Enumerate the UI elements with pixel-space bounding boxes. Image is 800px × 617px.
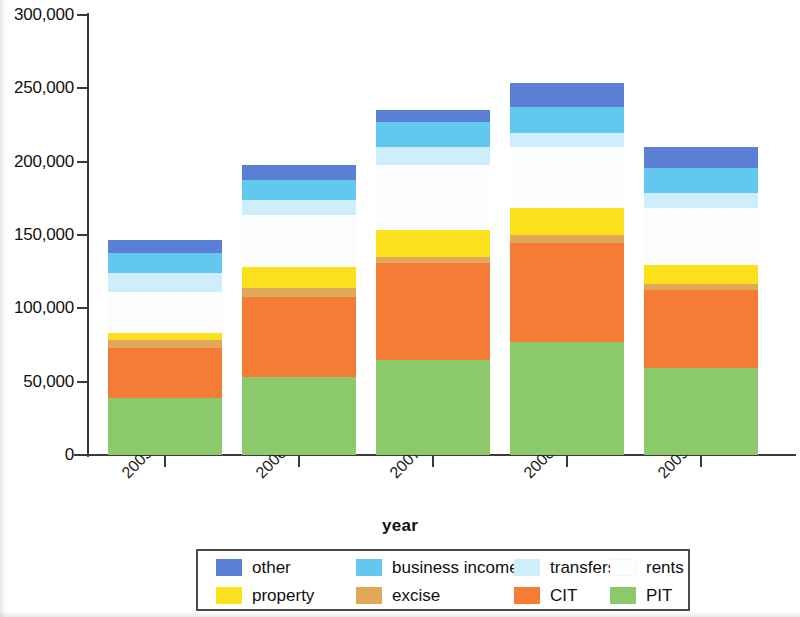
bar-segment-2008-transfers [510,133,624,147]
x-axis-tick [700,456,702,467]
stacked-bar-chart: 050,000100,000150,000200,000250,000300,0… [0,0,800,617]
legend-item-excise[interactable]: excise [356,581,440,610]
legend-row-top: otherbusiness incometransfersrents [198,553,688,582]
legend-swatch-PIT [610,587,636,604]
bar-segment-2005-business-income [108,253,222,273]
legend-row-bottom: propertyexciseCITPIT [198,581,688,610]
bar-segment-2009-business-income [644,168,758,193]
bar-segment-2005-other [108,240,222,253]
legend-item-business-income[interactable]: business income [356,553,519,582]
bar-segment-2005-CIT [108,348,222,398]
bar-segment-2008-excise [510,235,624,243]
legend-swatch-other [216,559,242,576]
bar-segment-2008-PIT [510,342,624,455]
legend-label-CIT: CIT [550,587,577,604]
x-axis-tick [298,456,300,467]
y-axis-tick-label: 150,000 [0,226,74,243]
bar-2008 [510,83,624,455]
bar-segment-2007-property [376,230,490,257]
y-axis-tick [77,14,88,16]
bar-segment-2006-business-income [242,180,356,200]
bar-segment-2005-excise [108,340,222,348]
y-axis-tick-label: 0 [0,446,74,463]
x-axis-tick [164,456,166,467]
bar-segment-2007-rents [376,165,490,230]
bar-segment-2005-property [108,333,222,340]
x-axis-title: year [0,516,800,536]
bar-segment-2009-rents [644,208,758,265]
bar-segment-2008-CIT [510,243,624,342]
plot-area [88,15,788,455]
bar-segment-2008-rents [510,147,624,208]
y-axis-tick [77,161,88,163]
legend-label-other: other [252,559,291,576]
bar-segment-2009-PIT [644,368,758,455]
y-axis-tick-label: 250,000 [0,79,74,96]
legend-item-PIT[interactable]: PIT [610,581,672,610]
bar-segment-2006-property [242,267,356,288]
bar-2006 [242,165,356,455]
legend-swatch-rents [610,559,636,576]
bar-segment-2008-property [510,208,624,235]
bar-segment-2009-CIT [644,290,758,368]
bar-segment-2006-CIT [242,297,356,377]
chart-legend: otherbusiness incometransfersrents prope… [196,549,690,611]
legend-item-property[interactable]: property [216,581,314,610]
legend-label-business-income: business income [392,559,519,576]
bar-segment-2006-excise [242,288,356,297]
bar-segment-2009-other [644,147,758,168]
bar-segment-2005-rents [108,292,222,333]
bar-segment-2007-transfers [376,147,490,165]
bar-segment-2006-rents [242,215,356,267]
y-axis-tick [77,87,88,89]
y-axis-tick-label: 200,000 [0,153,74,170]
bar-segment-2005-transfers [108,273,222,292]
bar-segment-2008-business-income [510,107,624,133]
legend-swatch-business-income [356,559,382,576]
legend-swatch-property [216,587,242,604]
y-axis-tick-label: 100,000 [0,299,74,316]
legend-label-rents: rents [646,559,684,576]
legend-swatch-CIT [514,587,540,604]
legend-label-property: property [252,587,314,604]
bar-segment-2007-other [376,110,490,122]
scan-edge-artifact-bottom [0,611,800,617]
bar-segment-2005-PIT [108,398,222,455]
y-axis-tick [77,234,88,236]
legend-swatch-transfers [514,559,540,576]
bar-segment-2009-property [644,265,758,284]
x-axis-tick [432,456,434,467]
legend-swatch-excise [356,587,382,604]
legend-item-rents[interactable]: rents [610,553,684,582]
bar-segment-2007-PIT [376,360,490,455]
legend-item-transfers[interactable]: transfers [514,553,616,582]
y-axis-tick-label: 50,000 [0,373,74,390]
legend-item-other[interactable]: other [216,553,291,582]
bar-segment-2008-other [510,83,624,107]
bar-2007 [376,110,490,455]
legend-label-excise: excise [392,587,440,604]
legend-item-CIT[interactable]: CIT [514,581,577,610]
bar-segment-2006-other [242,165,356,180]
bar-segment-2009-transfers [644,193,758,208]
bar-2005 [108,240,222,455]
y-axis-tick-label: 300,000 [0,6,74,23]
y-axis-tick [77,307,88,309]
bar-segment-2006-PIT [242,377,356,455]
y-axis-tick [77,381,88,383]
bar-segment-2006-transfers [242,200,356,215]
bar-2009 [644,147,758,455]
bar-segment-2007-business-income [376,122,490,147]
x-axis-tick [566,456,568,467]
bar-segment-2007-CIT [376,263,490,360]
legend-label-PIT: PIT [646,587,672,604]
legend-label-transfers: transfers [550,559,616,576]
